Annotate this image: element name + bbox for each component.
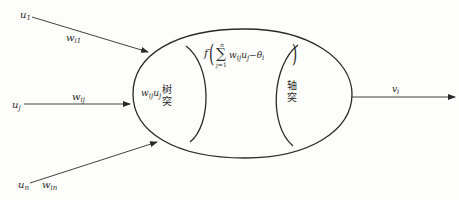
weight-win-label: win <box>42 180 57 192</box>
weight-wij-label: wij <box>72 92 85 104</box>
weight-wi1-label: wi1 <box>66 33 81 45</box>
neuron-diagram: u1 wi1 uj wij un win wijuj 树 突 f ( n ∑ j… <box>0 0 459 200</box>
input-arrow-1 <box>32 17 148 52</box>
input-u1-label: u1 <box>20 10 31 22</box>
dendrite-label: 树 突 <box>161 84 172 108</box>
input-arrow-n <box>30 142 157 183</box>
dendrite-boundary-arc <box>186 46 206 142</box>
dendrite-product-label: wijuj <box>141 89 161 100</box>
input-un-label: un <box>18 180 29 192</box>
diagram-lines <box>0 0 459 200</box>
input-uj-label: uj <box>12 100 21 112</box>
axon-label: 轴 突 <box>286 80 297 104</box>
output-vi-label: vi <box>392 85 399 96</box>
